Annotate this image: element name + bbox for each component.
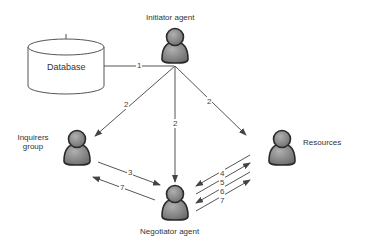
- inquirers-label-line1: Inquirers: [15, 133, 51, 142]
- edge-label-3: 3: [127, 168, 133, 177]
- inquirers-label-line2: group: [15, 142, 51, 151]
- edge-initiator-inquirers: [95, 66, 175, 136]
- database-label: Database: [47, 62, 86, 72]
- resources-label: Resources: [303, 138, 341, 147]
- edge-label-7-resources: 7: [219, 196, 225, 205]
- edge-label-4: 4: [219, 169, 225, 178]
- negotiator-agent-icon: [162, 186, 188, 221]
- negotiator-agent-label: Negotiator agent: [140, 227, 199, 236]
- edge-label-2-negotiator: 2: [172, 119, 178, 128]
- edge-label-6: 6: [219, 187, 225, 196]
- edge-label-2-inquirers: 2: [123, 100, 129, 109]
- inquirers-group-icon: [64, 131, 90, 166]
- edge-label-2-resources: 2: [206, 97, 212, 106]
- agent-negotiation-diagram: [0, 0, 367, 250]
- edge-label-1: 1: [136, 61, 142, 70]
- edge-label-7-inquirers: 7: [119, 183, 125, 192]
- initiator-agent-icon: [162, 29, 188, 64]
- resources-icon: [269, 131, 295, 166]
- inquirers-group-label: Inquirers group: [15, 133, 51, 151]
- edge-label-5: 5: [219, 178, 225, 187]
- initiator-agent-label: Initiator agent: [146, 13, 194, 22]
